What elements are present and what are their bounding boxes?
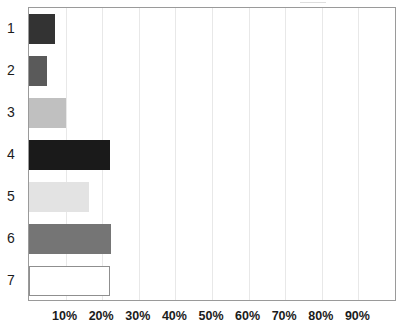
bar-row [29, 50, 395, 92]
x-axis-labels: 10% 20% 30% 40% 50% 60% 70% 80% 90% [0, 306, 404, 328]
bar-row [29, 260, 395, 301]
x-axis-tick-label: 90% [345, 306, 370, 326]
x-axis-tick-label: 20% [89, 306, 114, 326]
bar-category-2 [29, 56, 47, 86]
bar-row [29, 218, 395, 260]
scan-artifact [300, 2, 326, 3]
bar-row [29, 134, 395, 176]
x-axis-tick-label: 30% [125, 306, 150, 326]
x-axis-tick-label: 80% [308, 306, 333, 326]
bar-row [29, 92, 395, 134]
x-axis-tick-label: 50% [198, 306, 223, 326]
bar-category-1 [29, 14, 55, 44]
y-axis-tick-label: 3 [0, 91, 22, 133]
y-axis-tick-label: 5 [0, 175, 22, 217]
bar-row [29, 8, 395, 50]
y-axis-tick-label: 1 [0, 7, 22, 49]
x-axis-tick-label: 10% [52, 306, 77, 326]
bar-category-5 [29, 182, 89, 212]
y-axis-labels: 1 2 3 4 5 6 7 [0, 7, 26, 301]
x-axis-tick-label: 60% [235, 306, 260, 326]
bar-chart: 1 2 3 4 5 6 7 [0, 0, 404, 336]
plot-area [28, 7, 396, 301]
y-axis-tick-label: 2 [0, 49, 22, 91]
x-axis-tick-label: 70% [272, 306, 297, 326]
bar-category-4 [29, 140, 110, 170]
bar-category-7 [29, 266, 110, 296]
x-axis-tick-label: 40% [162, 306, 187, 326]
y-axis-tick-label: 4 [0, 133, 22, 175]
y-axis-tick-label: 6 [0, 217, 22, 259]
bar-category-6 [29, 224, 111, 254]
bar-series [29, 8, 395, 300]
bar-row [29, 176, 395, 218]
bar-category-3 [29, 98, 66, 128]
y-axis-tick-label: 7 [0, 259, 22, 301]
